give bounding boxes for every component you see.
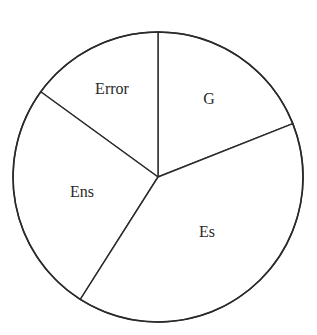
pie-slices xyxy=(13,32,303,322)
pie-chart-svg: Error G Ens Es xyxy=(0,0,317,335)
slice-label-error: Error xyxy=(95,80,129,97)
slice-label-es: Es xyxy=(199,223,215,240)
slice-label-g: G xyxy=(203,90,215,107)
pie-chart: Error G Ens Es xyxy=(0,0,317,335)
slice-label-ens: Ens xyxy=(70,183,94,200)
